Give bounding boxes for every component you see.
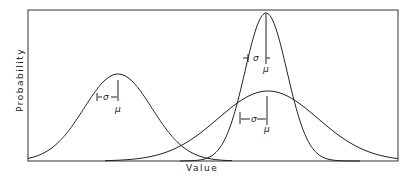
x-axis-label: Value xyxy=(186,163,218,173)
mu-label-left: μ xyxy=(114,104,121,114)
y-axis-label: Probability xyxy=(15,48,25,112)
sigma-label-left: σ xyxy=(103,92,109,102)
mu-label-wide: μ xyxy=(263,124,270,134)
narrow-curve xyxy=(180,13,360,161)
normal-distribution-chart: σ μ σ μ σ μ Value Probability xyxy=(0,0,412,180)
mu-label-narrow: μ xyxy=(262,64,269,74)
wide-curve xyxy=(105,91,398,161)
sigma-label-wide: σ xyxy=(251,114,257,124)
sigma-label-narrow: σ xyxy=(253,53,259,63)
left-curve xyxy=(28,74,232,161)
